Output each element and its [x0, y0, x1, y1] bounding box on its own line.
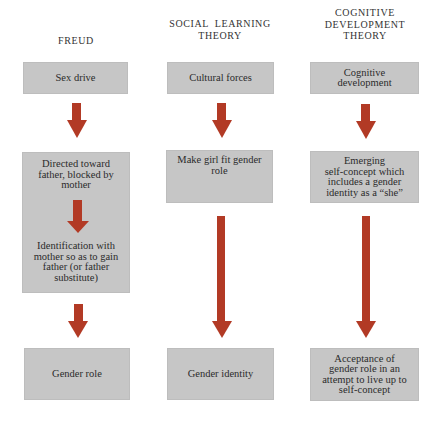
- freud-box-sex-drive: Sex drive: [23, 62, 128, 94]
- box-text: includes a gender: [328, 177, 401, 188]
- box-text: development: [337, 78, 391, 89]
- header-line: FREUD: [26, 35, 126, 47]
- social-box-gender-identity: Gender identity: [167, 348, 274, 400]
- arrow-down-icon: [356, 216, 376, 338]
- header-line: THEORY: [160, 30, 280, 42]
- arrow-down-icon: [67, 103, 87, 138]
- arrow-down-icon: [212, 103, 232, 138]
- arrow-down-icon: [68, 304, 88, 338]
- cognitive-box-acceptance-of-gender-role: Acceptance of gender role in an attempt …: [310, 348, 419, 401]
- box-text: Cultural forces: [189, 73, 252, 84]
- freud-box-gender-role: Gender role: [24, 348, 130, 400]
- box-text: Make girl fit gender: [166, 155, 273, 166]
- box-text: Emerging: [344, 156, 385, 167]
- social-box-make-girl-fit: Make girl fit gender role: [166, 150, 273, 203]
- header-social-learning: SOCIAL LEARNING THEORY: [160, 18, 280, 41]
- box-text: Gender identity: [188, 369, 254, 380]
- header-cognitive-development: COGNITIVE DEVELOPMENT THEORY: [310, 7, 420, 42]
- header-line: DEVELOPMENT: [310, 19, 420, 31]
- box-text: father (or father: [22, 262, 130, 273]
- box-text: Identification with: [22, 241, 130, 252]
- box-text: identity as a “she”: [326, 188, 403, 199]
- box-text: self-concept: [339, 385, 390, 396]
- freud-box-directed-identification: Directed toward father, blocked by mothe…: [22, 152, 130, 293]
- header-line: SOCIAL LEARNING: [160, 18, 280, 30]
- box-text: role: [166, 166, 273, 177]
- cognitive-box-emerging-self-concept: Emerging self-concept which includes a g…: [310, 151, 419, 203]
- box-text: Gender role: [52, 369, 102, 380]
- box-text: gender role in an: [329, 364, 400, 375]
- arrow-down-icon: [212, 216, 232, 338]
- arrow-down-icon: [67, 200, 89, 233]
- cognitive-box-cognitive-development: Cognitive development: [310, 62, 419, 94]
- header-line: THEORY: [310, 30, 420, 42]
- box-text: substitute): [22, 273, 130, 284]
- social-box-cultural-forces: Cultural forces: [167, 62, 274, 94]
- arrow-down-icon: [356, 104, 376, 139]
- box-text: Sex drive: [56, 73, 96, 84]
- box-text: mother: [22, 180, 130, 191]
- box-text: Directed toward: [22, 159, 130, 170]
- header-freud: FREUD: [26, 35, 126, 47]
- header-line: COGNITIVE: [310, 7, 420, 19]
